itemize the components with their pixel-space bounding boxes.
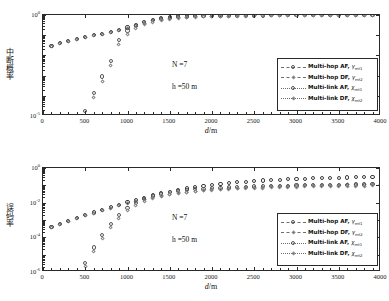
x-tick-label: 0 [40,273,43,280]
data-point-marker [252,186,257,191]
data-point-marker [277,185,282,190]
data-point-marker [117,42,122,47]
y-tick-minor [43,41,45,42]
legend-entry[interactable]: Multi-hop AF, γmt1 [281,62,373,73]
data-point-marker [370,184,375,189]
y-tick-minor [43,194,45,195]
data-point-marker [337,176,341,180]
data-point-marker [277,14,282,18]
x-tick-minor [271,268,272,270]
x-tick [128,168,129,171]
panel-bit-error-rate: 误码率 050010001500200025003000350040001001… [0,151,389,301]
x-tick-label: 500 [79,117,89,124]
y-tick-minor [43,36,45,37]
data-point-marker [108,63,113,68]
y-tick-minor [43,84,45,85]
x-tick-minor [305,112,306,114]
data-point-marker [354,175,358,179]
x-tick [339,15,340,18]
x-tick-minor [280,112,281,114]
data-point-marker [83,35,88,40]
y-tick-minor [43,21,45,22]
x-tick-label: 4000 [374,117,387,124]
y-axis-title-ber: 误码率 [3,203,14,227]
data-point-marker [345,184,350,189]
x-tick [170,15,171,18]
x-tick-minor [111,112,112,114]
x-tick-minor [263,268,264,270]
y-tick-minor [43,192,45,193]
x-tick-minor [288,268,289,270]
legend-outage[interactable]: Multi-hop AF, γmt1Multi-hop DF, γmt2Mult… [277,58,378,111]
x-tick [297,168,298,171]
legend-marker-sample [281,218,306,227]
legend-entry[interactable]: Multi-hop DF, γmt2 [281,73,373,84]
legend-label: Multi-hop AF, γmt1 [308,63,362,71]
data-point-marker [83,214,88,219]
x-tick-minor [195,112,196,114]
figure-container: 中断概率 05001000150020002500300035004000100… [0,0,389,301]
data-point-marker [100,209,105,214]
legend-marker-sample [281,228,306,237]
data-point-marker [109,59,113,63]
y-tick [376,185,379,186]
x-tick [170,168,171,171]
data-point-marker [193,189,198,194]
x-tick-label: 3000 [289,117,302,124]
data-point-marker [294,177,298,181]
legend-entry[interactable]: Multi-link AF, χmt1 [281,238,373,249]
legend-entry[interactable]: Multi-link DF, χmt2 [281,94,373,105]
y-tick-minor [43,99,45,100]
y-tick-minor [43,49,45,50]
data-point-marker [184,15,189,20]
y-tick-minor [43,169,45,170]
data-point-marker [201,188,206,193]
x-tick [128,267,129,270]
data-point-marker [235,187,240,192]
legend-ber[interactable]: Multi-hop AF, γmt1Multi-hop DF, γmt2Mult… [277,213,378,266]
x-tick [254,111,255,114]
y-tick [376,35,379,36]
x-tick-minor [220,112,221,114]
y-tick-minor [43,188,45,189]
data-point-marker [370,175,374,179]
x-tick-minor [153,112,154,114]
x-tick-minor [246,112,247,114]
x-tick [128,111,129,114]
x-tick-minor [195,268,196,270]
x-tick-minor [204,268,205,270]
y-tick-minor [43,18,45,19]
legend-entry[interactable]: Multi-hop DF, γmt2 [281,228,373,239]
x-tick-minor [161,112,162,114]
legend-entry[interactable]: Multi-link AF, χmt1 [281,83,373,94]
x-tick-minor [288,112,289,114]
x-tick [85,267,86,270]
x-tick-label: 3500 [331,117,344,124]
data-point-marker [66,39,71,44]
data-point-marker [379,14,380,17]
y-tick-label: 10-4 [14,232,40,240]
y-axis-title-outage: 中断概率 [3,48,14,80]
x-tick [85,168,86,171]
x-tick-label: 1500 [162,273,175,280]
legend-label: Multi-link AF, χmt1 [308,84,362,92]
x-tick-minor [220,268,221,270]
data-point-marker [269,186,274,191]
y-tick-minor [43,16,45,17]
y-tick-minor [43,204,45,205]
x-tick-minor [77,268,78,270]
data-point-marker [235,180,239,184]
x-tick-minor [187,112,188,114]
x-tick [339,168,340,171]
data-point-marker [100,79,105,84]
legend-entry[interactable]: Multi-hop AF, γmt1 [281,217,373,228]
data-point-marker [159,18,164,23]
y-tick [376,15,379,16]
legend-entry[interactable]: Multi-link DF, χmt2 [281,249,373,260]
x-tick-minor [144,268,145,270]
y-tick-minor [43,257,45,258]
y-tick-minor [43,264,45,265]
y-tick-minor [43,222,45,223]
y-tick-minor [43,223,45,224]
y-tick-minor [43,205,45,206]
